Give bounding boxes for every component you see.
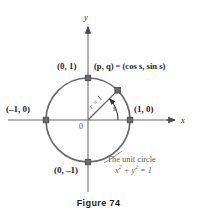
cos-sin-text: (cos s, sin s) [122, 61, 165, 71]
unit-circle-note-line2: x2 + y2 = 1 [107, 166, 193, 177]
origin-label: 0 [79, 123, 83, 131]
eq-mid: + y [122, 166, 136, 175]
point-label-top: (0, 1) [57, 62, 77, 71]
unit-circle-note: The unit circle x2 + y2 = 1 [107, 155, 193, 176]
point-label-bottom: (0, –1) [54, 166, 78, 175]
figure-container: y x 0 (0, 1) (1, 0) (0, –1) (–1, 0) r = … [0, 0, 197, 214]
point-pq-text: (p, q) [94, 61, 114, 71]
point-pq-equation: (p, q)=(cos s, sin s) [94, 62, 165, 71]
angle-label: s [113, 104, 116, 113]
eq-end: = 1 [138, 166, 152, 175]
figure-caption: Figure 74 [0, 198, 197, 208]
x-axis-label: x [181, 116, 185, 125]
point-label-right: (1, 0) [134, 105, 154, 114]
y-axis-label: y [84, 13, 88, 22]
point-pq-marker [115, 88, 121, 94]
point-label-left: (–1, 0) [6, 105, 30, 114]
